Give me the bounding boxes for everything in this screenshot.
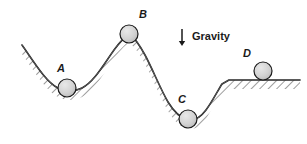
ball-layer [58,25,272,128]
gravity-arrow-icon [179,29,185,46]
ball-label-d: D [243,48,251,59]
ball-b [120,25,138,43]
ball-a [58,79,76,97]
ball-c [179,110,197,128]
ball-d [254,62,272,80]
ball-label-a: A [57,63,65,74]
ball-label-c: C [178,94,186,105]
gravity-label: Gravity [192,31,230,42]
physics-diagram: A B C D Gravity [0,0,307,144]
ball-label-b: B [139,9,147,20]
diagram-canvas [0,0,307,144]
